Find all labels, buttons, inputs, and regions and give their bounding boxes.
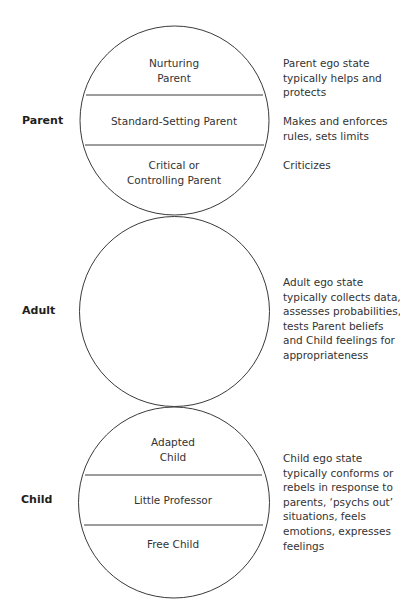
desc-line: Parent ego state bbox=[283, 56, 399, 71]
parent-description: Parent ego state typically helps and pro… bbox=[283, 56, 399, 100]
desc-line: Child ego state bbox=[283, 451, 399, 466]
standard-setting-parent: Standard-Setting Parent bbox=[111, 114, 237, 129]
adult-description: Adult ego state typically collects data,… bbox=[283, 275, 399, 363]
critical-parent-line2: Controlling Parent bbox=[127, 173, 221, 188]
adapted-child: Adapted Child bbox=[151, 435, 195, 464]
little-professor: Little Professor bbox=[134, 493, 212, 508]
desc-line: Adult ego state bbox=[283, 275, 399, 290]
nurturing-parent: Nurturing Parent bbox=[149, 56, 199, 85]
adult-label: Adult bbox=[22, 304, 55, 318]
adult-circle bbox=[80, 217, 270, 407]
standard-setting-parent-line1: Standard-Setting Parent bbox=[111, 114, 237, 129]
nurturing-parent-line1: Nurturing bbox=[149, 56, 199, 71]
desc-line: rebels in response to bbox=[283, 480, 399, 495]
desc-line: tests Parent beliefs bbox=[283, 319, 399, 334]
child-description: Child ego state typically conforms or re… bbox=[283, 451, 399, 553]
parent-label: Parent bbox=[22, 114, 63, 128]
desc-line: emotions, expresses bbox=[283, 524, 399, 539]
desc-line: rules, sets limits bbox=[283, 129, 399, 144]
desc-line: assesses probabilities, bbox=[283, 304, 399, 319]
desc-line: feelings bbox=[283, 539, 399, 554]
desc-line: typically conforms or bbox=[283, 466, 399, 481]
desc-line: and Child feelings for bbox=[283, 333, 399, 348]
adapted-child-line1: Adapted bbox=[151, 435, 195, 450]
adapted-child-line2: Child bbox=[151, 450, 195, 465]
desc-line: Makes and enforces bbox=[283, 114, 399, 129]
standard-setting-description: Makes and enforces rules, sets limits bbox=[283, 114, 399, 143]
critical-parent: Critical or Controlling Parent bbox=[127, 158, 221, 187]
critical-parent-line1: Critical or bbox=[127, 158, 221, 173]
desc-line: appropriateness bbox=[283, 348, 399, 363]
desc-line: parents, ‘psychs out’ bbox=[283, 495, 399, 510]
little-professor-line1: Little Professor bbox=[134, 493, 212, 508]
desc-line: typically helps and bbox=[283, 71, 399, 86]
free-child: Free Child bbox=[147, 537, 199, 552]
desc-line: protects bbox=[283, 85, 399, 100]
desc-line: Criticizes bbox=[283, 158, 399, 173]
critical-description: Criticizes bbox=[283, 158, 399, 173]
free-child-line1: Free Child bbox=[147, 537, 199, 552]
nurturing-parent-line2: Parent bbox=[149, 71, 199, 86]
child-label: Child bbox=[21, 493, 52, 507]
desc-line: typically collects data, bbox=[283, 290, 399, 305]
desc-line: situations, feels bbox=[283, 509, 399, 524]
